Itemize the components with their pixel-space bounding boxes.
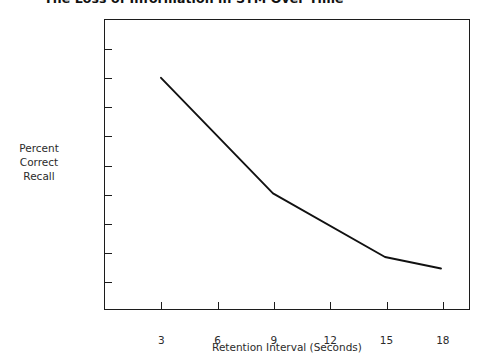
y-axis-tick (105, 282, 112, 283)
y-axis-title-line-2: Correct (8, 155, 70, 169)
y-axis-title-line-1: Percent (8, 141, 70, 155)
plot-area: 0102030405060708090100 369121518 (104, 19, 470, 310)
y-axis-tick (105, 78, 112, 79)
x-axis-tick (161, 302, 162, 309)
x-axis-tick (218, 302, 219, 309)
y-axis-tick (105, 136, 112, 137)
data-series-line (105, 20, 469, 309)
figure-title: The Loss of Information in STM Over Time (44, 0, 344, 6)
y-axis-title: Percent Correct Recall (8, 141, 70, 183)
y-axis-tick (105, 107, 112, 108)
x-axis-title: Retention Interval (Seconds) (104, 341, 470, 353)
y-axis-tick (105, 166, 112, 167)
y-axis-tick (105, 253, 112, 254)
y-axis-tick (105, 224, 112, 225)
y-axis-tick (105, 195, 112, 196)
x-axis-tick (387, 302, 388, 309)
x-axis-tick (274, 302, 275, 309)
y-axis-title-line-3: Recall (8, 169, 70, 183)
x-axis-tick (443, 302, 444, 309)
x-axis-tick (330, 302, 331, 309)
y-axis-tick (105, 49, 112, 50)
